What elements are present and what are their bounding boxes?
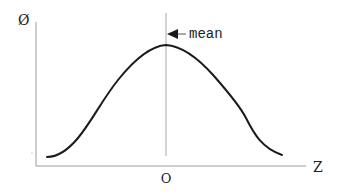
x-axis-label: Z: [313, 159, 323, 175]
bell-curve-diagram: mean Ø Z O: [0, 0, 339, 196]
y-axis-label: Ø: [18, 12, 29, 28]
mean-label: mean: [189, 26, 223, 42]
bell-curve: [47, 45, 282, 157]
center-tick-label: O: [161, 171, 172, 186]
mean-arrow-head-icon: [167, 29, 178, 39]
